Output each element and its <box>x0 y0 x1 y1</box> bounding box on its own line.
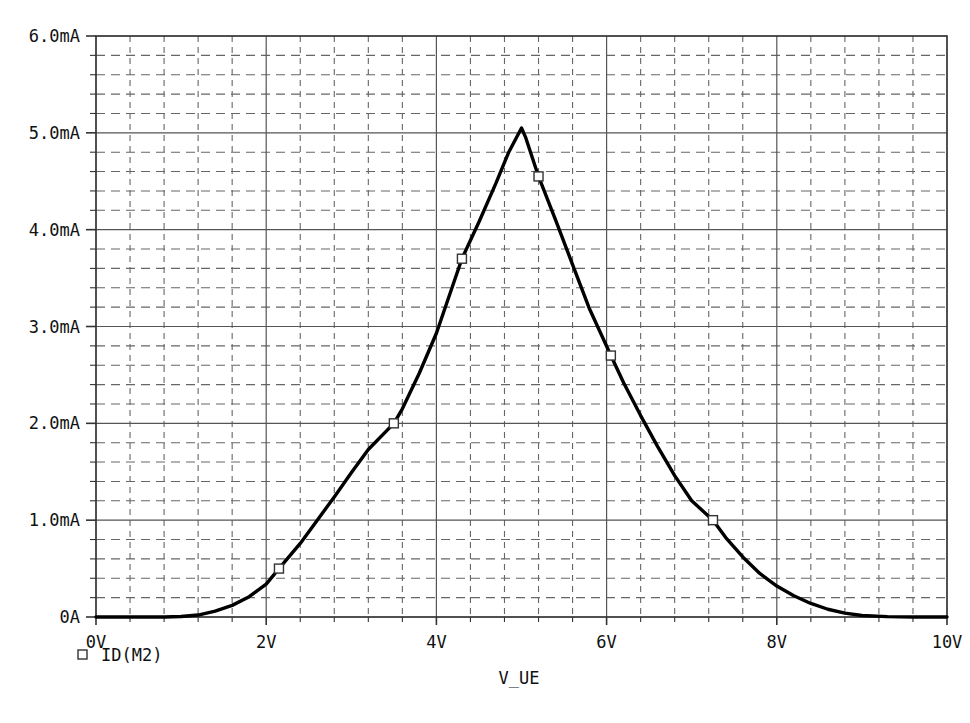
data-point-marker <box>534 172 543 181</box>
data-point-marker <box>606 351 615 360</box>
data-point-marker <box>708 516 717 525</box>
y-tick-label: 0A <box>60 607 80 627</box>
x-tick-label: 2V <box>256 632 276 652</box>
chart-container: 0V2V4V6V8V10V 0A1.0mA2.0mA3.0mA4.0mA5.0m… <box>0 0 970 723</box>
x-axis-title: V_UE <box>499 668 540 688</box>
data-point-marker <box>457 254 466 263</box>
data-point-marker <box>389 419 398 428</box>
y-tick-label: 4.0mA <box>29 220 80 240</box>
y-tick-label: 3.0mA <box>29 317 80 337</box>
y-tick-label: 5.0mA <box>29 123 80 143</box>
legend-label-id-m2: ID(M2) <box>101 645 162 665</box>
legend-square-marker <box>78 650 87 659</box>
x-tick-label: 6V <box>596 632 616 652</box>
y-tick-label: 6.0mA <box>29 26 80 46</box>
x-tick-label: 4V <box>426 632 446 652</box>
data-point-marker <box>274 564 283 573</box>
x-tick-label: 8V <box>767 632 787 652</box>
y-tick-label: 2.0mA <box>29 413 80 433</box>
plot-background <box>0 0 970 723</box>
y-tick-label: 1.0mA <box>29 510 80 530</box>
pspice-plot: 0V2V4V6V8V10V 0A1.0mA2.0mA3.0mA4.0mA5.0m… <box>0 0 970 723</box>
x-tick-label: 10V <box>932 632 963 652</box>
